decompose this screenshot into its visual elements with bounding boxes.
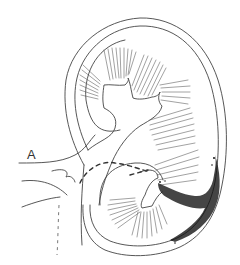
pyramid-hatching-lower-center (132, 205, 167, 238)
renal-pelvis (88, 78, 162, 205)
lower-calyx (140, 170, 162, 208)
kidney-illustration (0, 0, 240, 265)
pyramid-hatching-top (104, 48, 136, 80)
vessel-lower (22, 197, 60, 207)
pyramid-hatching-top-right (132, 55, 166, 96)
label-a: A (27, 147, 36, 162)
pyramid-hatching-right-lower (155, 150, 199, 185)
vessel-middle (22, 180, 67, 195)
dashed-outline-lower (57, 205, 59, 255)
kidney-diagram: A (0, 0, 240, 265)
vessel-middle-branch (52, 170, 75, 182)
pyramid-hatching-right-upper (160, 80, 190, 104)
stippled-lesion (158, 155, 220, 244)
